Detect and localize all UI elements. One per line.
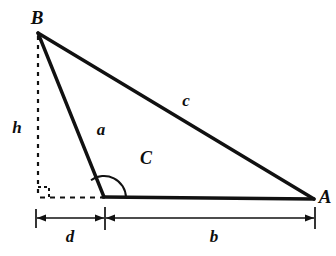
side-a-segment (38, 33, 104, 197)
angle-label-c: C (140, 149, 152, 167)
dimension-label-d: d (66, 228, 75, 245)
side-b-segment (103, 197, 314, 199)
side-label-a: a (97, 121, 106, 138)
vertex-label-a: A (319, 187, 332, 206)
altitude-label-h: h (12, 119, 21, 136)
geometry-diagram: B A h a c C d b (0, 0, 336, 256)
triangle-figure (0, 0, 336, 256)
dimension-arrow-b-left (106, 215, 115, 222)
vertex-label-b: B (31, 8, 44, 27)
right-angle-marker (38, 187, 49, 198)
side-c-segment (38, 33, 314, 199)
side-label-c: c (182, 92, 190, 109)
dimension-arrow-b-right (305, 215, 314, 222)
dimension-arrow-d-left (37, 215, 46, 222)
dimension-arrow-d-right (95, 215, 104, 222)
dimension-label-b: b (210, 228, 219, 245)
